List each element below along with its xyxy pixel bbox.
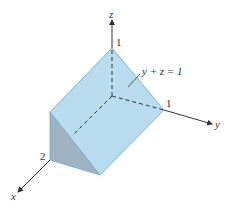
diagram-svg: z 1 y 1 x 2 y + z = 1 [0,0,232,213]
z-tick-label: 1 [116,36,122,48]
x-tick-label: 2 [40,150,46,162]
x-axis-label: x [10,190,16,202]
z-axis-label: z [108,8,114,20]
y-axis [164,110,212,124]
y-axis-label: y [214,118,220,130]
y-tick-label: 1 [166,97,172,109]
plane-equation-label: y + z = 1 [141,65,183,77]
x-axis [18,160,50,192]
wedge-diagram: z 1 y 1 x 2 y + z = 1 [0,0,232,213]
